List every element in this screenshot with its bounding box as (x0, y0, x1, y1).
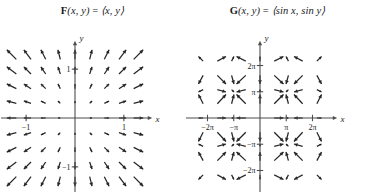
plot-area-F: −11−11xy (0, 24, 185, 193)
x-tick-label: π (284, 123, 288, 132)
vector-field-figure: F(x, y) = ⟨x, y⟩ −11−11xy G(x, y) = ⟨sin… (0, 0, 370, 193)
x-tick-label: −π (229, 123, 238, 132)
panel-title-G-equals: = (263, 5, 269, 16)
x-tick-label: −1 (22, 123, 31, 132)
y-tick-label: −1 (62, 163, 71, 172)
panel-title-F: F(x, y) = ⟨x, y⟩ (0, 4, 185, 16)
x-tick-label: −2π (201, 123, 214, 132)
y-tick-label: −π (247, 140, 256, 149)
x-axis-label: x (155, 114, 160, 124)
panel-vector-field-F: F(x, y) = ⟨x, y⟩ −11−11xy (0, 0, 185, 193)
panel-vector-field-G: G(x, y) = ⟨sin x, sin y⟩ −2π−ππ2π−2π−ππ2… (185, 0, 370, 193)
y-tick-label: π (251, 88, 255, 97)
axis-labels-G: −2π−ππ2π−2π−ππ2πxy (201, 33, 344, 176)
panel-title-F-equals: = (92, 5, 98, 16)
panel-title-G: G(x, y) = ⟨sin x, sin y⟩ (185, 4, 370, 16)
x-axis-label: x (340, 114, 345, 124)
axes-F (1, 41, 152, 192)
axes-G (186, 41, 337, 192)
y-axis-label: y (264, 33, 269, 43)
y-tick-label: −2π (243, 166, 256, 175)
x-tick-label: 1 (122, 123, 126, 132)
y-axis-label: y (79, 33, 84, 43)
x-tick-label: 2π (308, 123, 316, 132)
panel-title-G-components: ⟨sin x, sin y⟩ (272, 5, 326, 16)
y-tick-label: 1 (67, 65, 71, 74)
panel-title-F-components: ⟨x, y⟩ (101, 5, 124, 16)
panel-title-G-vector-name: G (230, 5, 238, 16)
panel-title-G-arguments: (x, y) (238, 5, 260, 16)
plot-area-G: −2π−ππ2π−2π−ππ2πxy (185, 24, 370, 193)
y-tick-label: 2π (247, 62, 255, 71)
panel-title-F-arguments: (x, y) (67, 5, 89, 16)
